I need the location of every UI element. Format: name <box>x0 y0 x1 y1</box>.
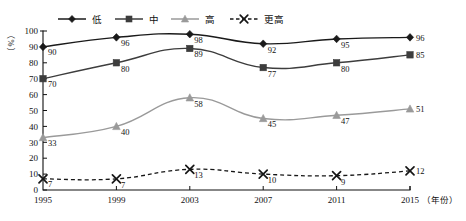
data-point-label: 90 <box>48 47 57 57</box>
x-axis-tick-labels: 199519992003200720112015 <box>34 186 420 205</box>
y-tick-label: 30 <box>29 138 39 148</box>
diamond-marker <box>333 35 340 43</box>
x-tick-label: 1999 <box>107 195 126 205</box>
data-point-label: 12 <box>416 166 425 176</box>
legend-item-2: 中 <box>115 14 159 25</box>
square-marker <box>113 60 119 66</box>
data-series-layer <box>39 30 414 182</box>
y-tick-label: 70 <box>29 74 39 84</box>
data-point-label: 80 <box>341 64 350 74</box>
square-marker <box>126 16 132 22</box>
data-point-label: 80 <box>121 64 129 74</box>
y-tick-label: 0 <box>34 185 39 195</box>
data-point-label: 47 <box>341 116 350 126</box>
square-marker <box>260 64 266 70</box>
data-point-label: 9 <box>341 177 345 187</box>
data-point-label: 85 <box>416 50 425 60</box>
legend-label: 低 <box>92 14 102 25</box>
y-tick-label: 50 <box>29 106 39 116</box>
y-tick-label: 90 <box>29 42 39 52</box>
square-marker <box>40 76 46 82</box>
data-point-label: 13 <box>194 170 203 180</box>
legend-label: 高 <box>205 14 215 25</box>
square-marker <box>407 52 413 58</box>
data-point-label: 7 <box>121 180 125 190</box>
data-point-label: 7 <box>48 179 52 189</box>
chart-axes <box>40 31 410 190</box>
x-tick-label: 2011 <box>328 195 346 205</box>
y-axis-unit-label: （%） <box>6 30 16 55</box>
series-4 <box>39 165 414 183</box>
data-point-label: 33 <box>48 138 57 148</box>
data-point-label: 98 <box>194 35 203 45</box>
x-tick-label: 2007 <box>254 195 273 205</box>
diamond-marker <box>39 43 46 51</box>
y-tick-label: 10 <box>29 169 39 179</box>
legend-item-4: 更高 <box>230 14 284 25</box>
data-point-label: 92 <box>268 45 277 55</box>
x-tick-label: 2003 <box>181 195 200 205</box>
diamond-marker <box>260 40 267 48</box>
diamond-marker <box>113 34 120 42</box>
data-point-label: 89 <box>194 49 203 59</box>
y-tick-label: 60 <box>29 90 39 100</box>
series-line <box>43 48 410 78</box>
data-point-label: 77 <box>268 69 277 79</box>
cross-marker <box>240 15 248 23</box>
y-tick-label: 80 <box>29 58 39 68</box>
y-axis-tick-labels: 0102030405060708090100 <box>25 26 48 195</box>
data-point-label: 58 <box>194 99 203 109</box>
series-2 <box>40 45 413 82</box>
line-chart: 低中高更高 0102030405060708090100 19951999200… <box>0 0 466 221</box>
y-tick-label: 100 <box>25 26 39 36</box>
legend-label: 中 <box>149 14 159 25</box>
data-point-label: 96 <box>416 33 425 43</box>
legend-label: 更高 <box>264 14 284 25</box>
series-line <box>43 98 410 138</box>
x-axis-unit-label: （年份） <box>422 195 458 205</box>
data-point-label: 70 <box>48 79 57 89</box>
x-tick-label: 1995 <box>34 195 53 205</box>
data-point-label: 95 <box>341 40 350 50</box>
data-point-label: 40 <box>121 127 129 137</box>
diamond-marker <box>186 30 193 38</box>
diamond-marker <box>406 34 413 42</box>
series-line <box>43 34 410 47</box>
data-point-label: 51 <box>416 104 425 114</box>
chart-legend: 低中高更高 <box>58 14 284 25</box>
legend-item-1: 低 <box>58 14 102 25</box>
axis-lines <box>43 31 410 190</box>
y-tick-label: 40 <box>29 122 39 132</box>
x-tick-label: 2015 <box>401 195 420 205</box>
series-1 <box>39 30 413 50</box>
diamond-marker <box>69 15 76 22</box>
square-marker <box>333 60 339 66</box>
series-line <box>43 169 410 180</box>
series-3 <box>39 94 414 141</box>
data-point-label: 45 <box>268 119 277 129</box>
square-marker <box>187 45 193 51</box>
y-tick-label: 20 <box>29 153 39 163</box>
legend-item-3: 高 <box>171 14 215 25</box>
data-point-label: 10 <box>268 175 277 185</box>
data-point-label: 96 <box>121 38 129 48</box>
chart-canvas: 低中高更高 0102030405060708090100 19951999200… <box>0 0 466 221</box>
